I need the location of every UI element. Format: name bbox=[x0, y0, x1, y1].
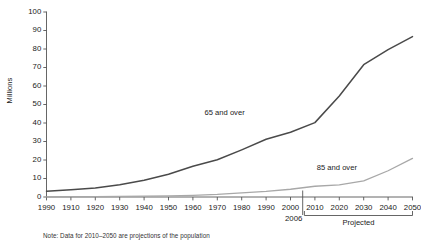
data-series-lines bbox=[47, 37, 413, 197]
projected-bracket bbox=[304, 211, 412, 216]
series-line-1 bbox=[47, 37, 413, 192]
axis-ticks bbox=[43, 12, 412, 215]
axis-lines bbox=[47, 12, 414, 198]
series-line-2 bbox=[47, 158, 413, 196]
